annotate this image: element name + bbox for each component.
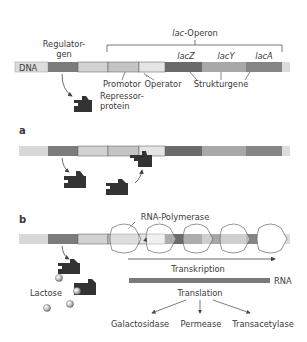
lacY-segment — [202, 62, 246, 72]
product-transacetylase: Transacetylase — [231, 319, 294, 329]
rna-polymerase-molecules — [110, 224, 287, 253]
dna-segment-end — [282, 62, 290, 72]
lacA-segment — [246, 62, 282, 72]
lac-operon-label: lac-Operon — [172, 28, 218, 38]
rna-polymerase-icon — [257, 224, 287, 253]
binding-arrow — [135, 170, 142, 183]
expression-arrow-a — [62, 158, 69, 172]
panel-a-label: a — [19, 125, 26, 136]
panel-b-label: b — [19, 214, 26, 225]
rna-polymerase-icon — [220, 224, 250, 253]
strukturgene-label: Strukturgene — [194, 79, 249, 89]
expression-arrow — [62, 74, 72, 96]
translation-label: Translation — [176, 288, 222, 298]
operator-segment — [139, 62, 165, 72]
promotor-label: Promotor — [103, 79, 142, 89]
product-galactosidase: Galactosidase — [111, 319, 169, 329]
regulator-gene-segment — [48, 62, 78, 72]
repressor-protein-icon — [58, 259, 80, 274]
rna-polymerase-icon — [110, 224, 141, 253]
rna-polymerase-icon — [183, 224, 213, 253]
dna-strand-a — [19, 146, 290, 156]
repressor-protein-icon — [74, 96, 92, 112]
lacY-label: lacY — [217, 51, 235, 61]
repressor-protein-icon — [64, 171, 86, 188]
transkription-label: Transkription — [170, 264, 225, 274]
lacZ-label: lacZ — [177, 51, 195, 61]
lactose-label: Lactose — [30, 288, 62, 298]
lacA-label: lacA — [255, 51, 273, 61]
product-permease: Permease — [181, 319, 222, 329]
spacer-segment — [78, 62, 108, 72]
repressor-label-2: protein — [100, 101, 130, 111]
lactose-icon — [55, 274, 62, 281]
regulator-gene-label-1: Regulator- — [43, 39, 86, 49]
repressor-protein-icon — [106, 179, 128, 195]
dna-strand-top — [15, 62, 290, 72]
rna-label: RNA — [274, 276, 292, 286]
lactose-icon — [73, 287, 80, 294]
expression-arrow-b — [62, 246, 69, 259]
rna-strand — [129, 278, 270, 283]
translation-arrows — [152, 300, 250, 313]
lactose-icon — [43, 304, 50, 311]
lac-operon-diagram: lac-Operon Regulator- gen lacZ lacY lacA… — [0, 0, 307, 342]
lacZ-segment — [165, 62, 202, 72]
rna-polymerase-icon — [146, 224, 176, 253]
lactose-icon — [66, 300, 73, 307]
rna-polymerase-label: RNA-Polymerase — [141, 212, 210, 222]
repressor-label-1: Repressor- — [100, 91, 144, 101]
operator-label: Operator — [144, 79, 182, 89]
dna-label: DNA — [19, 63, 38, 73]
promotor-segment — [108, 62, 139, 72]
regulator-gene-label-2: gen — [56, 49, 72, 59]
